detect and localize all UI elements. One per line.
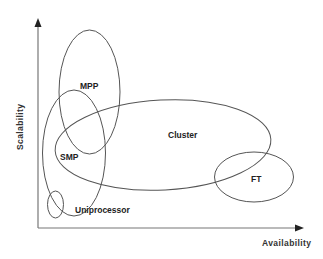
mpp-label: MPP (80, 81, 99, 91)
cluster-region (53, 94, 273, 195)
y-axis-arrowhead (35, 18, 42, 27)
ft-label: FT (251, 174, 262, 184)
cluster-label: Cluster (168, 130, 198, 140)
x-axis-arrowhead (295, 225, 304, 232)
diagram-canvas: MPP SMP Cluster FT Uniprocessor Availabi… (0, 0, 323, 259)
smp-label: SMP (60, 152, 79, 162)
y-axis-label: Scalability (15, 104, 25, 150)
uniprocessor-label: Uniprocessor (75, 205, 130, 215)
mpp-region (59, 30, 120, 154)
x-axis-label: Availability (262, 238, 311, 248)
